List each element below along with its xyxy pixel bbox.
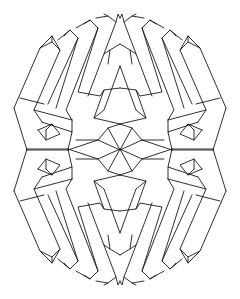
figure-stroke (14, 42, 60, 122)
figure-stroke (120, 277, 124, 285)
figure-stroke (98, 159, 120, 175)
quadrant-bottom-left (14, 149, 120, 285)
figure-stroke (124, 16, 152, 96)
figure-stroke (66, 20, 98, 120)
figure-stroke (120, 66, 146, 124)
figure-stroke (84, 275, 90, 279)
figure-stroke (196, 98, 220, 104)
figure-stroke (120, 128, 132, 150)
figure-stroke (142, 20, 174, 120)
figure-stroke (88, 203, 116, 283)
figure-stroke (94, 175, 120, 233)
figure-stroke (120, 140, 172, 150)
figure-stroke (88, 16, 116, 96)
figure-stroke (104, 283, 108, 285)
figure-stroke (116, 14, 120, 22)
figure-stroke (116, 277, 120, 285)
quadrant-top-left (14, 14, 120, 150)
figure-stroke (66, 179, 98, 279)
figure-stroke (84, 20, 90, 24)
figure-stroke (14, 149, 27, 191)
figure-stroke (150, 275, 156, 279)
figure-stroke (170, 30, 176, 36)
figure-stroke (180, 42, 226, 122)
figure-stroke (110, 249, 120, 255)
figure-stroke (120, 14, 124, 22)
figure-stroke (14, 177, 60, 257)
figure-stroke (150, 20, 156, 24)
figure-stroke (120, 159, 142, 175)
figure-stroke (110, 44, 120, 50)
figure-stroke (120, 249, 130, 255)
figure-stroke (120, 149, 172, 159)
figure-stroke (120, 44, 130, 50)
figure-stroke (213, 108, 226, 150)
figure-stroke (142, 179, 174, 279)
figure-stroke (68, 140, 120, 150)
figure-stroke (68, 149, 120, 159)
figure-stroke (20, 98, 44, 104)
figure-stroke (98, 124, 120, 140)
figure-stroke (180, 177, 226, 257)
figure-stroke (120, 149, 132, 171)
figure-stroke (108, 128, 120, 150)
quadrant-top-right (120, 14, 226, 150)
figure-stroke (170, 263, 176, 269)
figure-stroke (64, 263, 70, 269)
figure-stroke (132, 14, 136, 16)
figure-stroke (120, 175, 146, 233)
figure-stroke (14, 108, 27, 150)
figure-stroke (213, 149, 226, 191)
quadrant-bottom-right (120, 149, 226, 285)
figure-stroke (196, 195, 220, 201)
figure-stroke (104, 14, 108, 16)
figure-stroke (124, 203, 152, 283)
figure-stroke (94, 66, 120, 124)
impossible-figure-drawing (0, 0, 240, 299)
figure-stroke (64, 30, 70, 36)
figure-stroke (120, 124, 142, 140)
figure-stroke (108, 149, 120, 171)
figure-stroke (132, 283, 136, 285)
figure-stroke (20, 195, 44, 201)
